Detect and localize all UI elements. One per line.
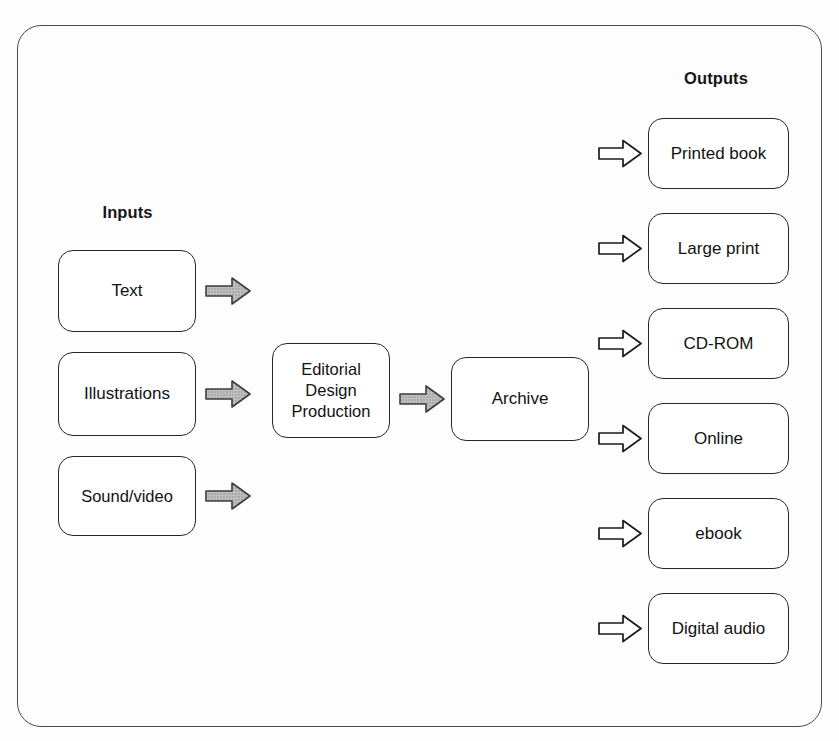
node-digital-audio: Digital audio xyxy=(648,593,789,664)
arrow-right-icon-to-digital-audio xyxy=(598,614,642,643)
node-ebook: ebook xyxy=(648,498,789,569)
node-cd-rom: CD-ROM xyxy=(648,308,789,379)
node-printed-book: Printed book xyxy=(648,118,789,189)
node-editorial-design-production: Editorial Design Production xyxy=(272,343,390,438)
outputs-column-heading: Outputs xyxy=(660,69,772,88)
arrow-right-icon-to-online xyxy=(598,424,642,453)
node-editorial-line-1: Editorial xyxy=(301,359,361,380)
node-sound-video: Sound/video xyxy=(58,456,196,536)
arrow-right-icon-text-to-editorial xyxy=(205,276,251,306)
node-editorial-line-3: Production xyxy=(292,401,371,422)
scan-artifact-strip xyxy=(0,0,839,14)
node-editorial-line-2: Design xyxy=(305,380,356,401)
arrow-right-icon-illustrations-to-editorial xyxy=(205,379,251,409)
arrow-right-icon-to-cd-rom xyxy=(598,329,642,358)
arrow-right-icon-sound-to-editorial xyxy=(205,481,251,511)
arrow-right-icon-editorial-to-archive xyxy=(399,384,445,414)
inputs-column-heading: Inputs xyxy=(75,203,180,222)
node-text: Text xyxy=(58,250,196,332)
node-archive: Archive xyxy=(451,357,589,441)
arrow-right-icon-to-large-print xyxy=(598,234,642,263)
arrow-right-icon-to-ebook xyxy=(598,519,642,548)
node-illustrations: Illustrations xyxy=(58,352,196,436)
arrow-right-icon-to-printed-book xyxy=(598,139,642,168)
node-large-print: Large print xyxy=(648,213,789,284)
diagram-canvas: Inputs Outputs Text Illustrations Sound/… xyxy=(0,0,839,741)
node-online: Online xyxy=(648,403,789,474)
